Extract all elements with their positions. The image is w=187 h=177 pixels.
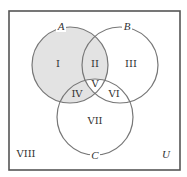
region-label-iii: III [125,58,137,69]
set-label-c: C [91,149,99,161]
region-label-i: I [56,58,60,69]
region-label-viii: VIII [15,148,35,159]
set-label-b: B [124,20,131,32]
region-label-v: V [90,78,99,89]
set-label-a: A [57,20,65,32]
region-label-iv: IV [71,88,83,99]
venn-diagram: A B C I II III IV V VI VII VIII U [0,0,187,177]
region-label-vii: VII [86,115,102,126]
region-label-ii: II [91,58,99,69]
region-label-vi: VI [107,88,119,99]
universe-label: U [162,148,171,160]
